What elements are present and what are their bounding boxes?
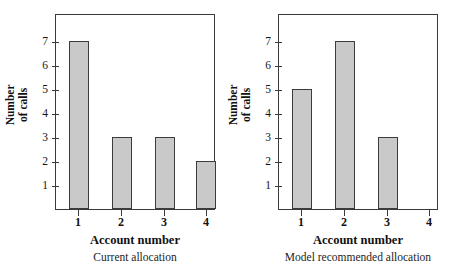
bar-right-3 — [378, 137, 398, 209]
y-tick-left-5 — [52, 90, 59, 91]
plot-area-right — [278, 14, 438, 210]
y-tick-right-7 — [275, 42, 282, 43]
y-tick-label-left-5: 5 — [26, 84, 48, 96]
y-axis-title-right-line1: Number — [227, 74, 240, 136]
y-tick-left-2 — [52, 162, 59, 163]
y-tick-label-right-1: 1 — [249, 180, 271, 192]
y-tick-right-6 — [275, 66, 282, 67]
bar-left-3 — [155, 137, 175, 209]
y-tick-right-3 — [275, 138, 282, 139]
x-axis-title-left: Account number — [55, 233, 215, 248]
x-tick-label-left-3: 3 — [152, 216, 176, 228]
bar-left-1 — [69, 41, 89, 209]
panel-caption-left: Current allocation — [35, 251, 235, 263]
x-axis-title-right: Account number — [278, 233, 438, 248]
y-tick-label-left-2: 2 — [26, 156, 48, 168]
bar-left-4 — [196, 161, 216, 209]
y-tick-right-4 — [275, 114, 282, 115]
y-tick-label-left-6: 6 — [26, 60, 48, 72]
y-tick-label-right-3: 3 — [249, 132, 271, 144]
y-tick-label-left-1: 1 — [26, 180, 48, 192]
y-tick-label-right-5: 5 — [249, 84, 271, 96]
y-tick-right-1 — [275, 186, 282, 187]
x-tick-label-right-1: 1 — [289, 216, 313, 228]
x-tick-label-right-3: 3 — [375, 216, 399, 228]
y-tick-label-left-3: 3 — [26, 132, 48, 144]
x-tick-label-left-4: 4 — [194, 216, 218, 228]
y-tick-label-left-4: 4 — [26, 108, 48, 120]
y-tick-label-right-4: 4 — [249, 108, 271, 120]
y-tick-right-2 — [275, 162, 282, 163]
x-tick-label-right-2: 2 — [332, 216, 356, 228]
y-tick-label-right-6: 6 — [249, 60, 271, 72]
x-tick-label-right-4: 4 — [417, 216, 441, 228]
plot-area-left — [55, 14, 215, 210]
y-tick-left-7 — [52, 42, 59, 43]
panel-caption-right: Model recommended allocation — [248, 251, 454, 263]
y-tick-label-right-7: 7 — [249, 36, 271, 48]
y-tick-label-right-2: 2 — [249, 156, 271, 168]
x-tick-label-left-2: 2 — [109, 216, 133, 228]
y-tick-left-3 — [52, 138, 59, 139]
y-tick-label-left-7: 7 — [26, 36, 48, 48]
chart-panel-current-allocation: Number of calls 7 6 5 4 3 2 1 1 2 3 4 — [0, 0, 227, 274]
y-tick-right-5 — [275, 90, 282, 91]
bar-left-2 — [112, 137, 132, 209]
y-tick-left-4 — [52, 114, 59, 115]
y-tick-left-6 — [52, 66, 59, 67]
x-tick-label-left-1: 1 — [66, 216, 90, 228]
figure-bar-chart-pair: Number of calls 7 6 5 4 3 2 1 1 2 3 4 — [0, 0, 454, 274]
bar-right-2 — [335, 41, 355, 209]
y-tick-left-1 — [52, 186, 59, 187]
bar-right-1 — [292, 89, 312, 209]
chart-panel-model-recommended-allocation: Number of calls 7 6 5 4 3 2 1 1 2 3 4 Ac… — [227, 0, 454, 274]
y-axis-title-left-line1: Number — [4, 74, 17, 136]
